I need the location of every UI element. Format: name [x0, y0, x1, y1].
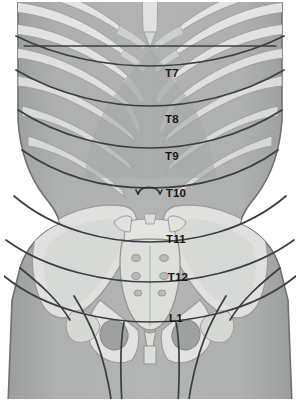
sacral-foramen [134, 290, 142, 296]
sacral-foramen [158, 290, 166, 296]
dermatome-label-t8: T8 [165, 113, 179, 125]
spinous-process [144, 214, 156, 224]
margin-left [0, 0, 4, 405]
anatomy-illustration: T7 T8 T9 T10 T11 T12 L1 [0, 0, 300, 405]
margin-bottom [0, 399, 300, 405]
pubic-symphysis [144, 346, 156, 364]
dermatome-label-t7: T7 [165, 67, 179, 79]
sacral-foramen [160, 255, 168, 262]
dermatome-figure: T7 T8 T9 T10 T11 T12 L1 [0, 0, 300, 405]
margin-right [296, 0, 300, 405]
sacral-foramen [132, 273, 140, 280]
dermatome-label-t10: T10 [166, 187, 186, 199]
dermatome-label-l1: L1 [169, 312, 183, 324]
dermatome-label-t9: T9 [165, 150, 179, 162]
margin-top [0, 0, 300, 2]
dermatome-label-t11: T11 [166, 233, 186, 245]
sacral-foramen [132, 255, 140, 262]
dermatome-label-t12: T12 [168, 271, 188, 283]
